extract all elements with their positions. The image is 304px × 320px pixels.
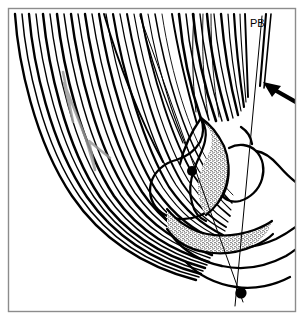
upper-landmark-dot bbox=[187, 166, 197, 176]
figure-container: PB bbox=[0, 0, 304, 320]
anatomical-line-drawing: PB bbox=[0, 0, 304, 320]
pb-label: PB bbox=[250, 17, 265, 29]
lower-landmark-dot bbox=[235, 287, 246, 298]
